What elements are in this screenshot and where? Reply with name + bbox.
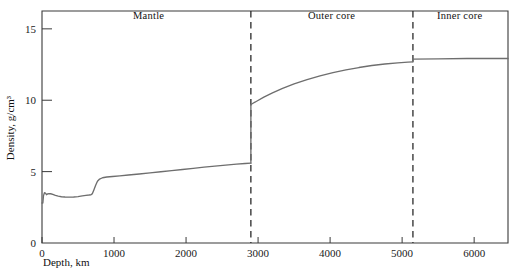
x-tick-label-5000: 5000	[391, 247, 414, 259]
curve-mantle-density	[42, 163, 251, 203]
region-label-inner-core: Inner core	[437, 10, 482, 21]
x-axis-title: Depth, km	[43, 256, 90, 268]
y-tick-label-0: 0	[31, 237, 37, 249]
x-axis-ticks: 0100020003000400050006000	[39, 237, 485, 259]
y-tick-label-5: 5	[31, 166, 37, 178]
density-depth-chart: 0100020003000400050006000 051015 MantleO…	[0, 0, 516, 271]
region-label-mantle: Mantle	[133, 10, 164, 21]
x-tick-label-1000: 1000	[103, 247, 126, 259]
region-boundaries	[251, 11, 413, 243]
density-curves	[42, 59, 508, 203]
x-tick-label-6000: 6000	[463, 247, 486, 259]
y-axis-title: Density, g/cm³	[4, 95, 16, 160]
curve-outer-core-density	[251, 62, 413, 105]
x-tick-label-3000: 3000	[247, 247, 270, 259]
y-axis-ticks: 051015	[25, 23, 52, 249]
y-tick-label-15: 15	[25, 23, 37, 35]
y-tick-label-10: 10	[25, 94, 37, 106]
curve-inner-core-density	[413, 59, 508, 60]
x-tick-label-2000: 2000	[175, 247, 198, 259]
region-label-outer-core: Outer core	[308, 10, 355, 21]
chart-canvas: 0100020003000400050006000 051015 MantleO…	[0, 0, 516, 271]
x-tick-label-4000: 4000	[319, 247, 342, 259]
plot-frame	[42, 11, 508, 243]
